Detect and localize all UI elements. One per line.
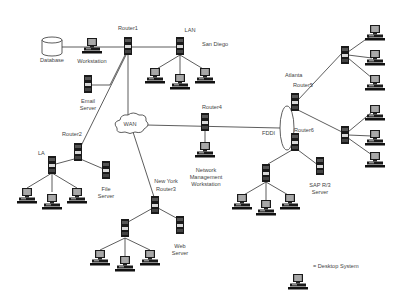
label-router4: Router4	[196, 104, 228, 111]
la-router-icon	[48, 156, 56, 174]
desktop-icon	[232, 194, 252, 210]
desktop-icon	[365, 105, 385, 121]
network-diagram	[0, 0, 399, 294]
label-nmw-3: Workstation	[186, 181, 226, 188]
lan-router-icon	[176, 37, 184, 55]
database-icon	[42, 37, 62, 56]
web-server-icon	[176, 216, 184, 234]
sap-server-icon	[316, 157, 324, 175]
legend-label: = Desktop System	[313, 263, 359, 270]
desktop-icon	[67, 188, 87, 204]
desktop-icon	[365, 75, 385, 91]
label-web-server-2: Server	[168, 250, 192, 257]
desktop-icon	[280, 194, 300, 210]
label-fddi: FDDI	[262, 130, 275, 137]
label-sap-1: SAP R/3	[306, 182, 334, 189]
label-nmw-1: Network	[186, 167, 226, 174]
desktop-icon	[365, 25, 385, 41]
workstation-desktop-icon	[82, 38, 102, 54]
label-lan: LAN	[176, 27, 204, 34]
legend-desktop-icon	[288, 274, 308, 290]
desktop-icon	[42, 194, 62, 210]
router6-icon	[291, 133, 299, 151]
ny-lan-router-icon	[121, 219, 129, 237]
desktop-icon	[90, 250, 110, 266]
label-wan: WAN	[120, 121, 140, 128]
desktop-icon	[115, 256, 135, 272]
desktop-icon	[365, 130, 385, 146]
label-router3: Router3	[150, 186, 182, 193]
label-router5: Router5	[293, 82, 313, 89]
label-router1: Router1	[112, 25, 144, 32]
desktop-icon	[256, 200, 276, 216]
label-nmw-2: Management	[186, 174, 226, 181]
router2-icon	[74, 143, 82, 161]
label-router6: Router6	[294, 127, 314, 134]
label-web-server-1: Web	[168, 243, 192, 250]
router1-icon	[124, 37, 132, 55]
atlanta-lan-router-3-icon	[262, 164, 270, 182]
label-database: Database	[36, 57, 68, 64]
desktop-icon	[140, 250, 160, 266]
router3-icon	[151, 196, 159, 214]
label-new-york: New York	[148, 178, 184, 185]
file-server-icon	[102, 161, 110, 179]
atlanta-lan-router-1-icon	[341, 46, 349, 64]
label-la: LA	[38, 150, 45, 157]
label-email-server-2: Server	[76, 105, 100, 112]
desktop-icon	[170, 74, 190, 90]
email-server-icon	[84, 75, 92, 93]
desktop-icon	[195, 68, 215, 84]
label-atlanta: Atlanta	[285, 72, 302, 79]
desktop-icon	[365, 152, 385, 168]
label-san-diego: San Diego	[202, 41, 228, 48]
label-file-server-2: Server	[94, 193, 118, 200]
label-email-server-1: Email	[76, 98, 100, 105]
router4-icon	[201, 113, 209, 131]
label-router2: Router2	[56, 131, 88, 138]
router5-icon	[291, 93, 299, 111]
label-workstation: Workstation	[74, 58, 110, 65]
atlanta-lan-router-2-icon	[341, 126, 349, 144]
desktop-icon	[145, 68, 165, 84]
desktop-icon	[17, 188, 37, 204]
label-sap-2: Server	[306, 189, 334, 196]
nmw-desktop-icon	[195, 142, 215, 158]
label-file-server-1: File	[94, 186, 118, 193]
